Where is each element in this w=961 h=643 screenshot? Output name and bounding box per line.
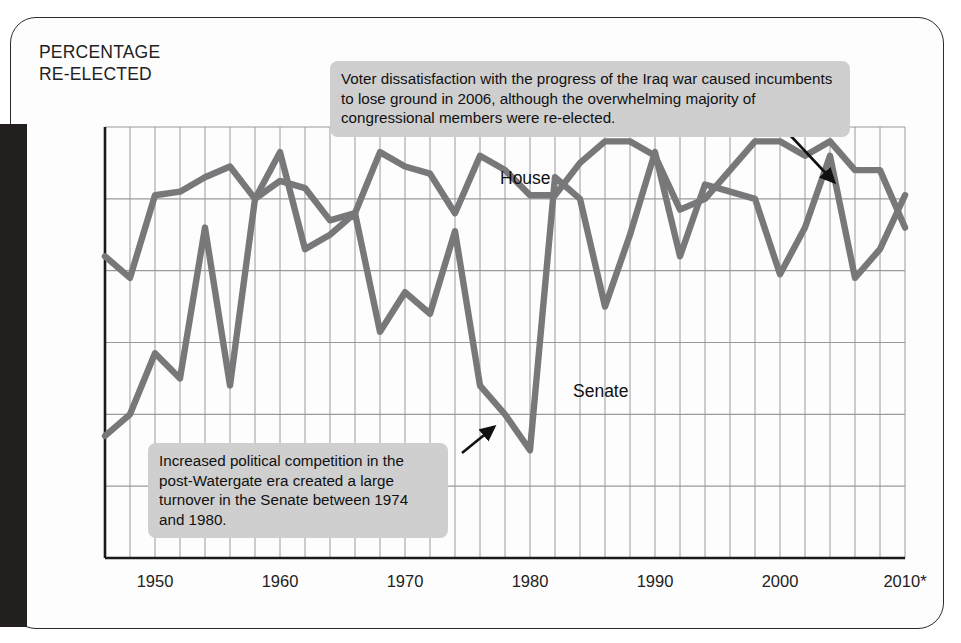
x-tick-label: 1950	[110, 572, 200, 591]
x-tick-label: 1970	[360, 572, 450, 591]
x-tick-label: 2010*	[860, 572, 950, 591]
x-tick-label: 2000	[735, 572, 825, 591]
x-tick-label: 1960	[235, 572, 325, 591]
series-label-house: House	[500, 168, 551, 189]
series-label-senate: Senate	[573, 381, 628, 402]
x-tick-label: 1990	[610, 572, 700, 591]
annotation-watergate: Increased political competition in the p…	[148, 443, 448, 538]
x-tick-label: 1980	[485, 572, 575, 591]
reelection-rate-chart: PERCENTAGE RE-ELECTED 100%90%80%70%60%50…	[0, 0, 961, 643]
page-background: PERCENTAGE RE-ELECTED 100%90%80%70%60%50…	[0, 0, 961, 643]
annotation-iraq-war: Voter dissatisfaction with the progress …	[330, 61, 850, 137]
